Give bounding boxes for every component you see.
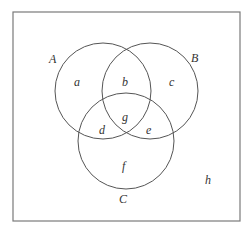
region-f-label: f <box>122 159 127 173</box>
venn-diagram: A B C a b c d e f g h <box>0 0 252 232</box>
region-c-label: c <box>169 75 175 89</box>
region-b-label: b <box>122 75 128 89</box>
region-e-label: e <box>146 123 152 137</box>
set-b-label: B <box>191 51 199 65</box>
region-a-label: a <box>74 75 80 89</box>
set-c-circle <box>78 93 174 189</box>
region-d-label: d <box>99 123 106 137</box>
region-h-label: h <box>205 173 211 187</box>
set-c-label: C <box>119 192 128 206</box>
set-a-label: A <box>48 52 57 66</box>
region-g-label: g <box>122 110 128 124</box>
